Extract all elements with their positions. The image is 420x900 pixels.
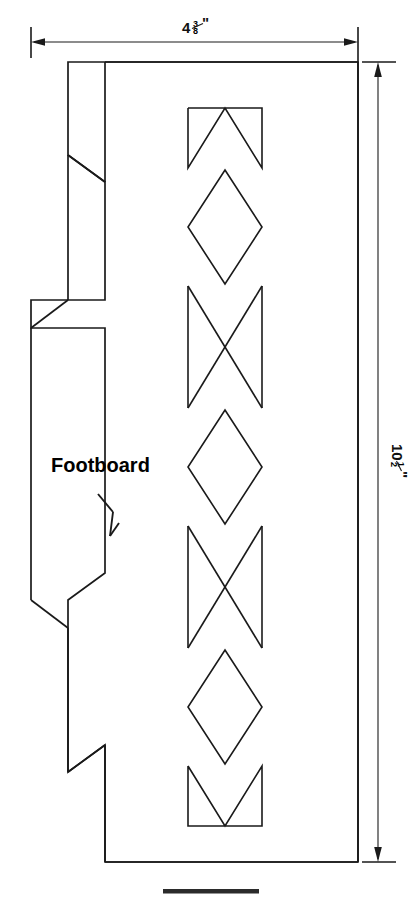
height-dim-arrow-top-icon [374, 62, 382, 77]
motif-1-shape [188, 108, 262, 168]
motif-diamond-center [188, 410, 262, 524]
motif-diamond-lower [188, 650, 262, 764]
motif-bowtie-upper [188, 286, 262, 408]
width-dim-arrow-left-icon [31, 38, 45, 46]
width-dim-arrow-right-icon [344, 38, 358, 46]
width-dimension-group: 4 3 8 " [31, 14, 358, 62]
footboard-leader-arrow [98, 494, 119, 536]
motif-bowtie-lower [188, 526, 262, 648]
bottom-edge-bar [163, 889, 259, 894]
motif-6-shape [188, 650, 262, 764]
width-dim-whole: 4 [182, 19, 191, 36]
motif-2-shape [188, 170, 262, 284]
motif-chevron-down-block [188, 108, 262, 168]
motif-7-shape [188, 766, 262, 826]
motif-diamond-upper [188, 170, 262, 284]
height-dimension-label: 10 1 2 " [389, 444, 411, 478]
profile-notch-2-diagonal [31, 300, 68, 328]
drawing-canvas: 4 3 8 " 10 1 2 " [0, 0, 420, 900]
height-dim-arrow-bottom-icon [374, 847, 382, 862]
motif-4-shape [188, 410, 262, 524]
decorative-column [188, 108, 262, 826]
profile-notch-4-diagonal [68, 745, 105, 772]
width-dimension-label: 4 3 8 " [182, 14, 209, 36]
height-dimension-group: 10 1 2 " [362, 62, 411, 862]
footboard-label-group: Footboard [51, 454, 150, 536]
height-dim-denominator: 2 [389, 462, 399, 467]
profile-notch-1-diagonal [68, 155, 105, 182]
page-title: Footboard [51, 454, 150, 476]
height-dim-unit: " [394, 471, 411, 478]
width-dim-unit: " [202, 14, 209, 31]
footboard-technical-drawing: 4 3 8 " 10 1 2 " [0, 0, 420, 900]
motif-chevron-up-block [188, 766, 262, 826]
height-dim-whole: 10 [389, 444, 406, 461]
profile-notch-3-diagonal [31, 600, 68, 628]
width-dim-denominator: 8 [193, 26, 198, 36]
